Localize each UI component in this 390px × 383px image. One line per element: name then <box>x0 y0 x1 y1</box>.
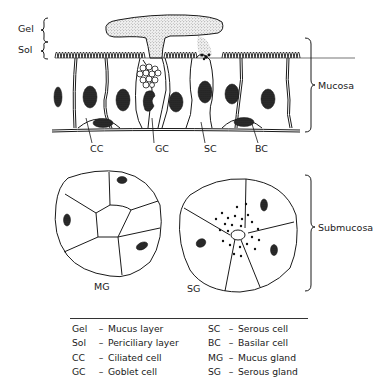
sol-brace <box>41 42 48 59</box>
legend-item: CC–Ciliated cell <box>72 351 179 365</box>
legend-item: SC–Serous cell <box>208 322 298 336</box>
legend-text: Basilar cell <box>238 336 288 350</box>
legend-text: Mucus layer <box>108 322 163 336</box>
legend-divider <box>70 318 308 319</box>
legend-abbr: CC <box>72 351 94 365</box>
legend-dash: – <box>94 322 108 336</box>
legend-item: MG–Mucus gland <box>208 351 298 365</box>
legend-abbr: SG <box>208 365 224 379</box>
goblet-granules <box>137 64 161 88</box>
cilia-row <box>55 52 300 58</box>
label-mg: MG <box>94 281 110 292</box>
airway-epithelium-diagram: Gel Sol <box>0 0 390 383</box>
legend-text: Ciliated cell <box>108 351 162 365</box>
legend-dash: – <box>224 336 238 350</box>
legend-text: Mucus gland <box>238 351 296 365</box>
legend-text: Periciliary layer <box>108 336 179 350</box>
submucosa-brace <box>305 175 315 291</box>
legend-right-column: SC–Serous cell BC–Basilar cell MG–Mucus … <box>208 322 298 379</box>
legend-item: Gel–Mucus layer <box>72 322 179 336</box>
gel-brace <box>41 18 48 42</box>
legend-left-column: Gel–Mucus layer Sol–Periciliary layer CC… <box>72 322 179 379</box>
label-sg: SG <box>187 283 200 294</box>
mucosa-label: Mucosa <box>318 80 354 91</box>
gel-label: Gel <box>18 23 34 34</box>
legend-abbr: SC <box>208 322 224 336</box>
label-cc: CC <box>90 143 104 154</box>
legend-dash: – <box>94 365 108 379</box>
legend-item: BC–Basilar cell <box>208 336 298 350</box>
mucus-gland-nuclei <box>64 177 149 252</box>
serous-gland <box>179 179 297 292</box>
legend-item: Sol–Periciliary layer <box>72 336 179 350</box>
legend-dash: – <box>224 365 238 379</box>
legend-abbr: Sol <box>72 336 94 350</box>
legend-item: GC–Goblet cell <box>72 365 179 379</box>
legend-text: Goblet cell <box>108 365 157 379</box>
legend-dash: – <box>94 351 108 365</box>
sol-label: Sol <box>18 44 32 55</box>
legend-abbr: BC <box>208 336 224 350</box>
legend-dash: – <box>224 322 238 336</box>
submucosa-label: Submucosa <box>318 222 373 233</box>
legend-text: Serous gland <box>238 365 298 379</box>
legend-dash: – <box>94 336 108 350</box>
legend-text: Serous cell <box>238 322 288 336</box>
label-sc: SC <box>204 143 217 154</box>
label-bc: BC <box>255 143 268 154</box>
legend-abbr: GC <box>72 365 94 379</box>
legend-abbr: MG <box>208 351 224 365</box>
label-gc: GC <box>155 143 169 154</box>
mucus-gland <box>55 171 161 277</box>
legend-item: SG–Serous gland <box>208 365 298 379</box>
layer-labels: Gel Sol <box>18 18 48 59</box>
legend-dash: – <box>224 351 238 365</box>
mucus-over-serous <box>197 36 212 57</box>
legend-abbr: Gel <box>72 322 94 336</box>
mucosa-brace <box>305 38 315 132</box>
